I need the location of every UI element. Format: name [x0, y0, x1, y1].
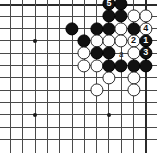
grid-line-vertical [59, 0, 60, 153]
stone-white [127, 10, 140, 23]
stone-black [102, 22, 115, 35]
stone-white [78, 47, 91, 60]
star-point [107, 113, 111, 117]
stone-black [115, 10, 128, 23]
stone-white [127, 47, 140, 60]
stone-white [102, 34, 115, 47]
grid-line-vertical [22, 0, 23, 153]
grid-line-vertical [10, 0, 11, 153]
stone-white [102, 71, 115, 84]
stone-white [115, 22, 128, 35]
stone-black [90, 22, 103, 35]
stone-white [115, 34, 128, 47]
star-point [33, 39, 37, 43]
stone-black [127, 22, 140, 35]
stone-white [90, 34, 103, 47]
stone-black [65, 22, 78, 35]
go-board-diagram: 54213 a [0, 0, 160, 161]
stone-black [90, 47, 103, 60]
grid-line-vertical [47, 0, 48, 153]
stone-white [78, 59, 91, 72]
stone-white [127, 84, 140, 97]
stone-black [102, 47, 115, 60]
stone-black [102, 10, 115, 23]
stone-black-move-1: 1 [139, 34, 152, 47]
point-marker-a: a [119, 49, 123, 59]
stone-white-move-2: 2 [127, 34, 140, 47]
grid-line-vertical [84, 0, 85, 153]
stone-black-move-3: 3 [139, 47, 152, 60]
stone-white [127, 71, 140, 84]
stone-white-move-4: 4 [139, 22, 152, 35]
stone-black [139, 59, 152, 72]
star-point [33, 113, 37, 117]
stone-black [127, 59, 140, 72]
stone-black [78, 34, 91, 47]
stone-black [115, 59, 128, 72]
stone-white [90, 59, 103, 72]
grid-line-vertical [35, 0, 36, 153]
stone-white [90, 84, 103, 97]
stone-black [102, 59, 115, 72]
stone-white [139, 10, 152, 23]
